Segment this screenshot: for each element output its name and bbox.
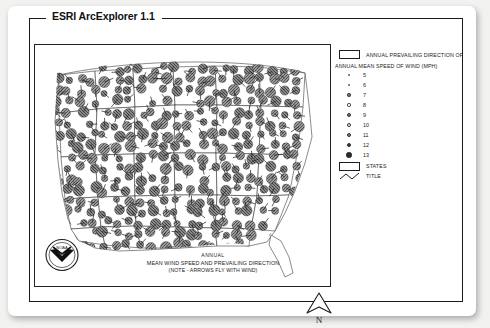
legend-item-direction-label: ANNUAL PREVAILING DIRECTION OF WIND	[366, 52, 463, 58]
caption-line-subject: MEAN WIND SPEED AND PREVAILING DIRECTION	[128, 260, 298, 266]
legend-speed-class-list: 5678910111213	[335, 70, 463, 160]
direction-swatch-icon	[339, 50, 360, 59]
speed-class-dot-icon	[335, 113, 363, 117]
speed-class-dot-icon	[335, 152, 363, 157]
speed-class-label: 12	[363, 142, 383, 148]
legend-speed-header: ANNUAL MEAN SPEED OF WIND (MPH)	[335, 63, 463, 69]
states-swatch-icon	[339, 162, 360, 171]
legend-item-states-label: STATES	[366, 163, 387, 169]
speed-class-dot-icon	[335, 74, 363, 76]
north-arrow: N	[304, 292, 334, 326]
north-arrow-icon	[304, 292, 334, 314]
map-legend: ANNUAL PREVAILING DIRECTION OF WIND ANNU…	[335, 48, 463, 181]
speed-class-label: 13	[363, 152, 383, 158]
noaa-seal-text: NOAA	[56, 245, 68, 250]
legend-speed-class[interactable]: 6	[335, 80, 463, 90]
legend-item-title-label: TITLE	[366, 173, 381, 179]
speed-class-label: 7	[363, 92, 383, 98]
speed-class-dot-icon	[335, 133, 363, 137]
speed-class-label: 11	[363, 132, 383, 138]
speed-class-dot-icon	[335, 123, 363, 127]
legend-speed-class[interactable]: 7	[335, 90, 463, 100]
zigzag-line-icon	[339, 172, 360, 181]
legend-speed-class[interactable]: 5	[335, 70, 463, 80]
application-title: ESRI ArcExplorer 1.1	[46, 10, 162, 22]
legend-speed-class[interactable]: 12	[335, 140, 463, 150]
legend-speed-class[interactable]: 8	[335, 100, 463, 110]
speed-class-dot-icon	[335, 84, 363, 87]
legend-item-title[interactable]: TITLE	[335, 171, 463, 181]
speed-class-label: 5	[363, 72, 383, 78]
noaa-seal-logo: NOAA	[44, 238, 80, 272]
speed-class-dot-icon	[335, 143, 363, 148]
speed-class-label: 6	[363, 82, 383, 88]
legend-speed-class[interactable]: 13	[335, 150, 463, 160]
document-page: ESRI ArcExplorer 1.1	[8, 6, 476, 316]
caption-line-note: (NOTE - ARROWS FLY WITH WIND)	[128, 267, 298, 273]
speed-class-dot-icon	[335, 93, 363, 96]
north-arrow-label: N	[304, 315, 334, 325]
speed-class-dot-icon	[335, 103, 363, 106]
speed-class-label: 9	[363, 112, 383, 118]
legend-item-states[interactable]: STATES	[335, 161, 463, 171]
caption-line-annual: ANNUAL	[128, 252, 298, 258]
legend-speed-class[interactable]: 9	[335, 110, 463, 120]
speed-class-label: 10	[363, 122, 383, 128]
screenshot-root: ESRI ArcExplorer 1.1	[0, 0, 490, 328]
legend-item-direction[interactable]: ANNUAL PREVAILING DIRECTION OF WIND	[335, 48, 463, 61]
legend-speed-class[interactable]: 11	[335, 130, 463, 140]
speed-class-label: 8	[363, 102, 383, 108]
map-caption: ANNUAL MEAN WIND SPEED AND PREVAILING DI…	[128, 252, 298, 273]
legend-speed-class[interactable]: 10	[335, 120, 463, 130]
